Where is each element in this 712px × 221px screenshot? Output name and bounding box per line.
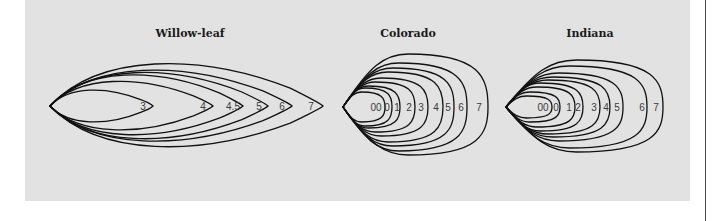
willow-leaf-size-label: 4 xyxy=(200,101,206,112)
willow-leaf-size-labels: 344.5567 xyxy=(140,101,314,112)
indiana-size-label: 5 xyxy=(614,102,620,113)
willow-leaf-size-label: 4.5 xyxy=(226,101,240,112)
willow-leaf-title: Willow-leaf xyxy=(154,27,225,40)
indiana-size-label: 6 xyxy=(639,102,645,113)
indiana-group: Indiana 0001234567 xyxy=(506,27,663,152)
indiana-title: Indiana xyxy=(566,27,613,40)
colorado-size-labels: 0001234567 xyxy=(370,102,482,113)
indiana-size-label: 00 xyxy=(537,102,549,113)
indiana-size-label: 3 xyxy=(591,102,597,113)
willow-leaf-size-label: 5 xyxy=(256,101,262,112)
colorado-size-label: 3 xyxy=(418,102,424,113)
spinner-blade-diagram: Willow-leaf 344.5567 Colorado 0001234567… xyxy=(0,0,712,221)
colorado-blades xyxy=(343,54,488,155)
colorado-size-label: 2 xyxy=(406,102,412,113)
indiana-size-label: 0 xyxy=(553,102,559,113)
colorado-size-label: 5 xyxy=(445,102,451,113)
colorado-size-label: 0 xyxy=(384,102,390,113)
colorado-size-label: 4 xyxy=(433,102,439,113)
willow-leaf-size-label: 6 xyxy=(279,101,285,112)
indiana-size-label: 7 xyxy=(653,102,659,113)
willow-leaf-size-label: 7 xyxy=(308,101,314,112)
colorado-size-label: 1 xyxy=(394,102,400,113)
colorado-size-label: 7 xyxy=(476,102,482,113)
colorado-size-label: 6 xyxy=(458,102,464,113)
indiana-size-label: 2 xyxy=(575,102,581,113)
willow-leaf-size-label: 3 xyxy=(140,101,146,112)
figure-canvas: Willow-leaf 344.5567 Colorado 0001234567… xyxy=(0,0,712,221)
colorado-size-label: 00 xyxy=(370,102,382,113)
colorado-group: Colorado 0001234567 xyxy=(343,27,488,155)
indiana-size-label: 1 xyxy=(566,102,572,113)
colorado-title: Colorado xyxy=(380,27,436,40)
indiana-size-labels: 0001234567 xyxy=(537,102,659,113)
willow-leaf-group: Willow-leaf 344.5567 xyxy=(50,27,323,147)
indiana-size-label: 4 xyxy=(603,102,609,113)
